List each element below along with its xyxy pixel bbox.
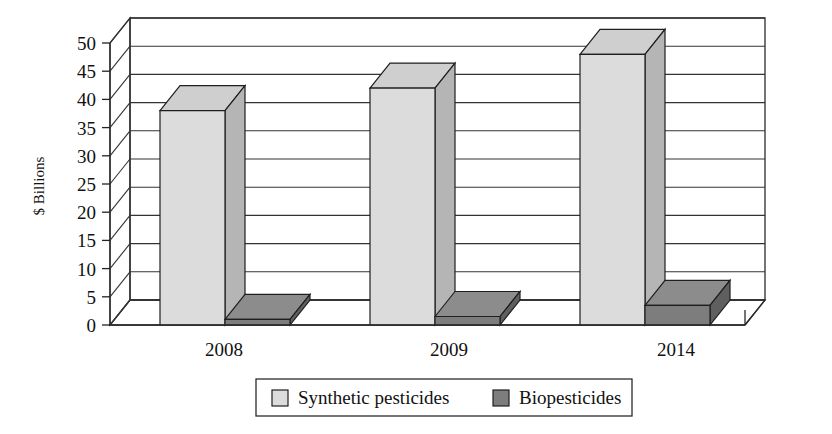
bar-front-face bbox=[435, 317, 500, 326]
legend-swatch-icon bbox=[493, 390, 509, 406]
y-tick-label: 25 bbox=[77, 174, 96, 195]
legend: Synthetic pesticides Biopesticides bbox=[256, 379, 632, 416]
y-tick-label: 45 bbox=[77, 61, 96, 82]
y-tick-label: 0 bbox=[87, 315, 97, 336]
bar-synthetic-2014[interactable] bbox=[580, 29, 665, 325]
bar-side-face bbox=[225, 86, 245, 325]
y-tick-label: 15 bbox=[77, 230, 96, 251]
bar-synthetic-2009[interactable] bbox=[370, 63, 455, 325]
category-label-2008: 2008 bbox=[205, 339, 243, 360]
chart-container: $ Billions bbox=[0, 0, 832, 434]
legend-swatch-icon bbox=[272, 390, 288, 406]
bar-synthetic-2008[interactable] bbox=[160, 86, 245, 325]
y-tick-label: 5 bbox=[87, 287, 97, 308]
category-label-2009: 2009 bbox=[430, 339, 468, 360]
bar-front-face bbox=[580, 54, 645, 325]
y-tick-label: 10 bbox=[77, 259, 96, 280]
bar-side-face bbox=[645, 29, 665, 325]
bar-chart-svg: $ Billions bbox=[0, 0, 832, 434]
category-label-2014: 2014 bbox=[657, 339, 696, 360]
legend-label-synthetic: Synthetic pesticides bbox=[298, 387, 449, 408]
bar-front-face bbox=[645, 305, 710, 325]
bar-front-face bbox=[370, 88, 435, 325]
y-tick-label: 30 bbox=[77, 146, 96, 167]
y-tick-label: 40 bbox=[77, 89, 96, 110]
bar-front-face bbox=[225, 319, 290, 325]
y-tick-label: 50 bbox=[77, 33, 96, 54]
y-tick-label: 20 bbox=[77, 202, 96, 223]
y-tick-label: 35 bbox=[77, 118, 96, 139]
legend-label-biopesticides: Biopesticides bbox=[519, 387, 621, 408]
bar-side-face bbox=[435, 63, 455, 325]
y-axis-label: $ Billions bbox=[31, 156, 47, 215]
legend-item-synthetic[interactable]: Synthetic pesticides bbox=[272, 387, 449, 408]
bar-front-face bbox=[160, 111, 225, 325]
